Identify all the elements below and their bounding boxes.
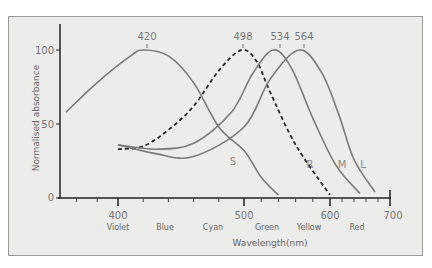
y-tick-label-100: 100 — [35, 45, 54, 56]
y-tick-label-50: 50 — [41, 119, 54, 130]
band-label-cyan: Cyan — [203, 223, 223, 232]
x-tick-label-700: 700 — [383, 210, 402, 221]
peak-label-420: 420 — [137, 31, 156, 42]
absorbance-chart: 100 50 0 400 500 600 700 Violet Blue Cya… — [0, 0, 432, 268]
x-tick-label-400: 400 — [108, 210, 127, 221]
curve-s-cone — [66, 50, 278, 195]
curve-label-m: M — [338, 159, 347, 170]
curve-l-cone — [118, 50, 375, 192]
peak-label-498: 498 — [233, 31, 252, 42]
curve-label-s: S — [230, 156, 236, 167]
curve-m-cone — [118, 50, 360, 194]
y-axis-title: Normalised absorbance — [31, 64, 41, 171]
x-axis-title: Wavelength(nm) — [233, 238, 308, 248]
band-label-green: Green — [255, 223, 279, 232]
band-label-red: Red — [349, 223, 364, 232]
curve-label-l: L — [360, 159, 366, 170]
x-tick-label-500: 500 — [234, 210, 253, 221]
peak-label-564: 564 — [294, 31, 313, 42]
x-tick-label-600: 600 — [320, 210, 339, 221]
band-label-blue: Blue — [156, 223, 174, 232]
y-tick-label-0: 0 — [48, 192, 54, 203]
band-label-yellow: Yellow — [296, 223, 322, 232]
curve-rod — [118, 50, 330, 195]
curve-label-r: R — [307, 159, 314, 170]
peak-label-534: 534 — [270, 31, 289, 42]
band-label-violet: Violet — [107, 223, 130, 232]
